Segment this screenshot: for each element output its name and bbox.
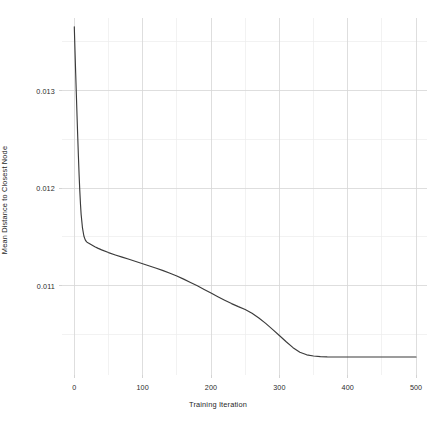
x-tick-label: 100 xyxy=(136,383,148,392)
chart-background xyxy=(0,0,436,423)
chart-figure: 0.0110.0120.013 0100200300400500 Trainin… xyxy=(0,0,436,423)
x-tick-label: 0 xyxy=(72,383,76,392)
x-tick-label: 400 xyxy=(342,383,354,392)
y-tick-label: 0.011 xyxy=(22,281,55,290)
y-axis-title: Mean Distance to Closest Node xyxy=(0,146,9,254)
y-tick-label: 0.013 xyxy=(22,86,55,95)
x-tick-label: 200 xyxy=(205,383,217,392)
x-axis-title: Training Iteration xyxy=(0,400,436,409)
line-chart-plot xyxy=(0,0,436,423)
y-tick-label: 0.012 xyxy=(22,184,55,193)
x-tick-label: 300 xyxy=(273,383,285,392)
x-tick-label: 500 xyxy=(410,383,422,392)
